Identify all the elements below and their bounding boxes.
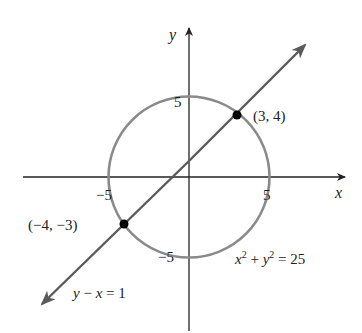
circle-line-intersection-diagram: y x −5 5 5 −5 (3, 4) (−4, −3) x2 + y2 = … xyxy=(0,0,362,333)
eq-circle-y: y xyxy=(261,251,270,267)
line-equation-label: y − x = 1 xyxy=(71,285,126,301)
eq-line-minus: − xyxy=(80,285,96,301)
eq-circle-plus: + xyxy=(247,251,263,267)
y-tick-5: 5 xyxy=(174,94,182,110)
x-tick-5: 5 xyxy=(263,187,271,203)
y-tick-neg5: −5 xyxy=(158,249,174,265)
eq-line-eq: = 1 xyxy=(102,285,125,301)
point-label-3-4: (3, 4) xyxy=(253,108,286,125)
eq-line-y: y xyxy=(71,285,80,301)
x-tick-neg5: −5 xyxy=(96,187,112,203)
intersection-point-neg4-neg3 xyxy=(120,220,129,229)
line-y-minus-x-equals-1 xyxy=(189,45,305,161)
x-axis-label: x xyxy=(334,184,342,201)
circle-equation-label: x2 + y2 = 25 xyxy=(234,249,305,267)
eq-circle-eq: = 25 xyxy=(274,251,305,267)
y-axis-label: y xyxy=(167,26,177,44)
point-label-neg4-neg3: (−4, −3) xyxy=(28,217,77,234)
intersection-point-3-4 xyxy=(233,111,242,120)
